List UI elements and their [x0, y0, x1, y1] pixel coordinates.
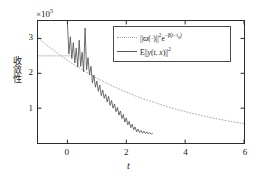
y-tick-label: 3 [17, 32, 33, 42]
x-tick-label: 2 [118, 147, 134, 157]
legend-entry-expectation: E||y(t, x)||2 [117, 44, 226, 58]
legend-entry-bound: ||ϖ(·)||2e−β(t−t0) [117, 30, 226, 44]
x-axis-title: t [0, 160, 257, 171]
chart-legend: ||ϖ(·)||2e−β(t−t0) E||y(t, x)||2 [113, 26, 231, 62]
legend-swatch-dotted-line [117, 32, 137, 42]
x-tick-label: 4 [178, 147, 194, 157]
y-tick-label: 1 [17, 103, 33, 113]
x-tick-label: 0 [59, 147, 75, 157]
legend-label-expectation: E||y(t, x)||2 [140, 46, 171, 57]
multiplier-exponent: 5 [50, 8, 53, 14]
y-axis-multiplier: ×105 [36, 8, 53, 19]
y-tick-label: 2 [17, 67, 33, 77]
legend-label-bound: ||ϖ(·)||2e−β(t−t0) [140, 32, 182, 43]
legend-swatch-solid-line [117, 46, 137, 56]
multiplier-base: ×10 [36, 9, 50, 19]
figure: ×105 收敛性 1230246 t ||ϖ(·)||2e−β(t−t0) E|… [0, 0, 257, 178]
x-tick-label: 6 [237, 147, 253, 157]
